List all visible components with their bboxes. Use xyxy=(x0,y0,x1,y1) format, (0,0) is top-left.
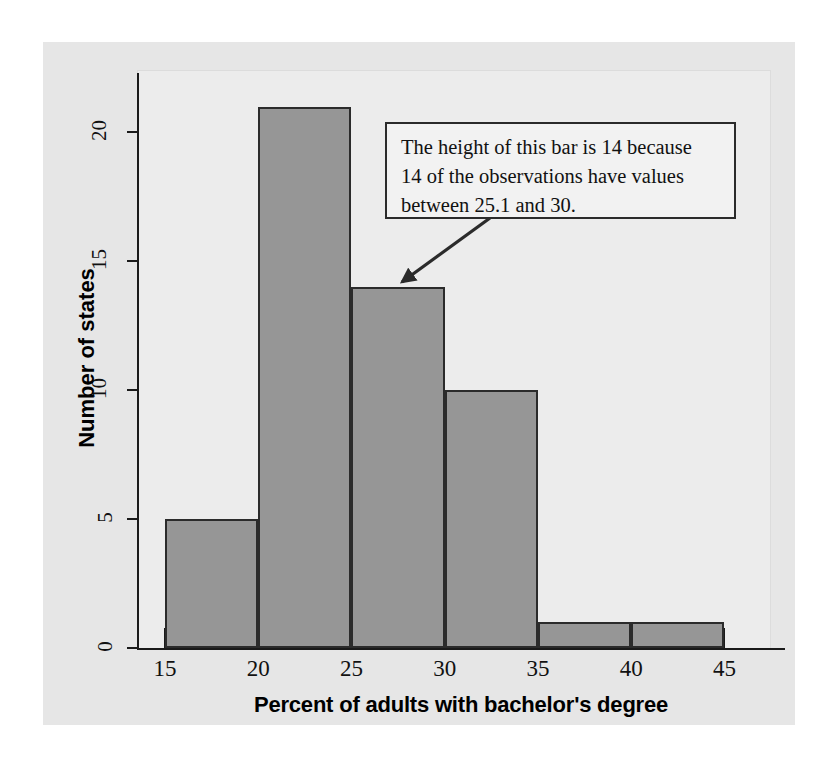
annotation-text: The height of this bar is 14 because 14 … xyxy=(401,133,722,220)
histogram-bar xyxy=(258,107,351,648)
y-tick-label: 5 xyxy=(0,505,110,530)
x-tick-label: 30 xyxy=(415,656,475,682)
chart-axes: 05101520 15202530354045 Number of states… xyxy=(0,0,825,770)
x-tick-label: 20 xyxy=(228,656,288,682)
histogram-bar xyxy=(165,519,258,648)
y-axis-title: Number of states xyxy=(74,228,100,488)
x-tick-label: 25 xyxy=(321,656,381,682)
x-axis-title: Percent of adults with bachelor's degree xyxy=(137,692,785,718)
y-tick-mark xyxy=(127,389,138,391)
y-tick-mark xyxy=(127,518,138,520)
histogram-bar xyxy=(351,287,444,648)
annotation-line-1: The height of this bar is 14 because xyxy=(401,133,722,162)
x-tick-label: 40 xyxy=(601,656,661,682)
annotation-callout: The height of this bar is 14 because 14 … xyxy=(385,122,736,219)
y-axis-spine xyxy=(137,73,139,650)
y-tick-label: 0 xyxy=(0,634,110,659)
x-axis-spine xyxy=(137,648,785,650)
x-tick-label: 15 xyxy=(135,656,195,682)
histogram-bar xyxy=(538,622,631,648)
y-tick-mark xyxy=(127,131,138,133)
y-tick-mark xyxy=(127,647,138,649)
annotation-line-2: 14 of the observations have values xyxy=(401,162,722,191)
y-tick-label: 20 xyxy=(0,118,110,143)
histogram-figure-page: 05101520 15202530354045 Number of states… xyxy=(0,0,825,770)
annotation-line-3: between 25.1 and 30. xyxy=(401,191,722,220)
histogram-bar xyxy=(631,622,724,648)
x-tick-label: 35 xyxy=(508,656,568,682)
histogram-bar xyxy=(445,390,538,648)
x-tick-label: 45 xyxy=(694,656,754,682)
y-tick-mark xyxy=(127,260,138,262)
